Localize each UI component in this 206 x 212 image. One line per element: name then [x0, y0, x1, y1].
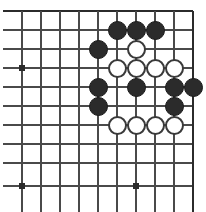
white-stone[interactable] — [127, 59, 146, 78]
black-stone[interactable] — [127, 78, 146, 97]
white-stone[interactable] — [146, 116, 165, 135]
black-stone[interactable] — [165, 78, 184, 97]
white-stone[interactable] — [146, 59, 165, 78]
black-stone[interactable] — [184, 78, 203, 97]
star-point — [19, 183, 24, 188]
white-stone[interactable] — [127, 116, 146, 135]
white-stone[interactable] — [108, 116, 127, 135]
white-stone[interactable] — [108, 59, 127, 78]
black-stone[interactable] — [89, 40, 108, 59]
black-stone[interactable] — [146, 21, 165, 40]
black-stone[interactable] — [89, 78, 108, 97]
white-stone[interactable] — [165, 116, 184, 135]
star-point — [19, 65, 24, 70]
black-stone[interactable] — [89, 97, 108, 116]
white-stone[interactable] — [165, 59, 184, 78]
white-stone[interactable] — [127, 40, 146, 59]
black-stone[interactable] — [127, 21, 146, 40]
black-stone[interactable] — [108, 21, 127, 40]
go-board[interactable] — [0, 0, 206, 212]
star-point — [133, 183, 138, 188]
black-stone[interactable] — [165, 97, 184, 116]
